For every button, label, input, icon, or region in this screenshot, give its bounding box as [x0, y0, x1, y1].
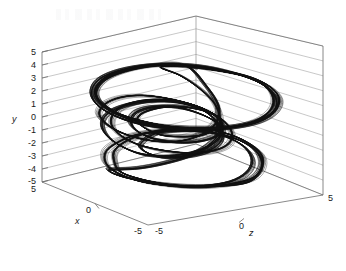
y-axis-label: y	[12, 115, 17, 124]
y-tick-label-3: 3	[19, 74, 36, 83]
y-tick-label-2: 2	[19, 87, 36, 96]
x-tick-label-neg5: -5	[134, 227, 142, 236]
z-tick-label-neg5: -5	[155, 227, 163, 236]
x-axis-label: x	[75, 217, 80, 226]
y-tick-label-neg3: -3	[19, 152, 36, 161]
z-tick-label-5: 5	[328, 194, 333, 203]
z-axis-label: z	[249, 229, 254, 238]
scan-artifact	[56, 9, 161, 20]
y-tick-label-1: 1	[19, 100, 36, 109]
y-tick-label-neg2: -2	[19, 139, 36, 148]
y-tick-label-5: 5	[19, 48, 36, 57]
y-tick-label-4: 4	[19, 61, 36, 70]
corner-tick-label-5: 5	[19, 185, 36, 194]
x-tick-label-0: 0	[86, 206, 91, 215]
y-tick-label-0: 0	[19, 113, 36, 122]
z-tick-label-0: 0	[239, 222, 244, 231]
y-tick-label-neg1: -1	[19, 126, 36, 135]
y-tick-label-neg4: -4	[19, 165, 36, 174]
attractor-3d-plot	[0, 0, 346, 271]
